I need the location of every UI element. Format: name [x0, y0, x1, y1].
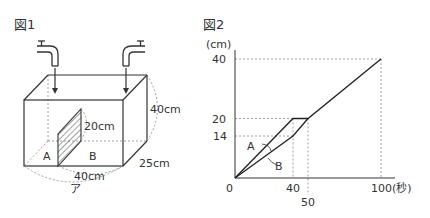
x-tick-40: 40 [286, 182, 300, 195]
y-axis-unit: (cm) [206, 38, 231, 51]
y-tick-20: 20 [212, 113, 226, 126]
partition-height-label: 20cm [84, 120, 115, 133]
figures-canvas: 図1 [0, 0, 430, 218]
left-faucet-icon [37, 41, 58, 66]
right-faucet-icon [123, 41, 145, 66]
x-axis-unit: (秒) [392, 181, 412, 195]
series-a-leader [262, 144, 271, 151]
figure-1: 図1 [14, 17, 181, 196]
left-arrowhead-icon [52, 88, 58, 94]
y-tick-40: 40 [212, 53, 226, 66]
tank-depth-label: 25cm [139, 157, 170, 170]
reference-lines [235, 59, 381, 195]
tank-height-label: 40cm [150, 103, 181, 116]
figure-1-title: 図1 [14, 17, 35, 32]
x-tick-50: 50 [301, 196, 315, 209]
right-arrowhead-icon [123, 88, 129, 94]
tank-width-label: 40cm [74, 170, 105, 183]
compartment-b-label: B [89, 150, 97, 163]
series-b-label: B [275, 160, 283, 173]
series-b-line [235, 119, 308, 179]
figure-2-chart: 図2 (cm) A B 40 20 14 0 40 50 100 (秒) [203, 17, 412, 209]
figure-2-title: 図2 [203, 17, 224, 32]
origin-label: 0 [226, 182, 233, 195]
arc-label-a: ア [70, 183, 81, 196]
series-a-label: A [247, 140, 255, 153]
partition-plate [58, 109, 81, 166]
compartment-a-label: A [43, 150, 51, 163]
y-tick-14: 14 [213, 130, 227, 143]
x-tick-100: 100 [371, 182, 392, 195]
